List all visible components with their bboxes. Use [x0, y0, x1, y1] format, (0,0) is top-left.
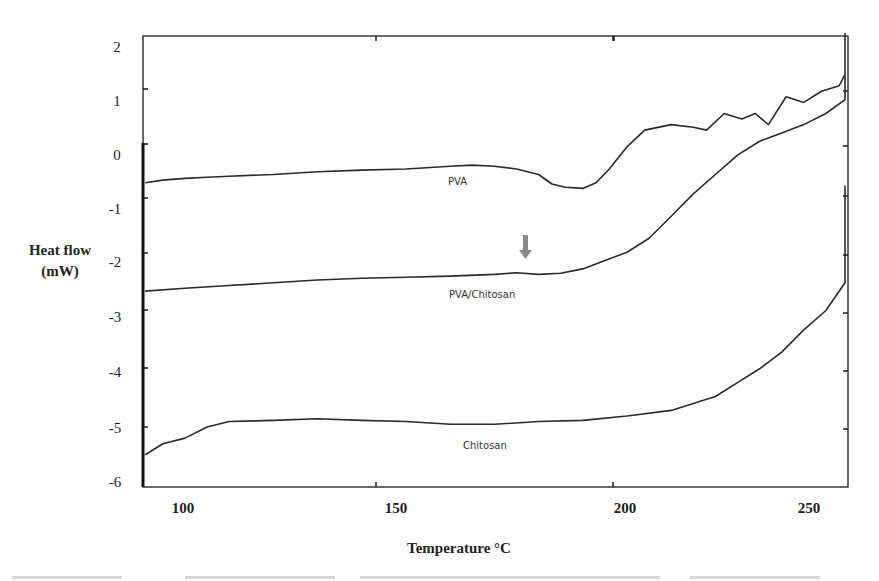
cropped-caption-remnant	[12, 576, 820, 579]
y-tick-label: 0	[113, 147, 121, 163]
x-tick-label: 100	[172, 500, 195, 516]
y-tick-label: -5	[109, 420, 122, 436]
series-line-pva	[145, 33, 845, 188]
series-label-pva-chitosan: PVA/Chitosan	[449, 289, 515, 300]
series-label-pva: PVA	[448, 176, 467, 187]
series-layer	[145, 33, 845, 455]
x-tick-label: 250	[798, 500, 821, 516]
series-line-pva-chitosan	[145, 75, 845, 292]
y-tick-label: -6	[109, 474, 122, 490]
dsc-thermogram-chart: 2 1 0 -1 -2 -3 -4 -5 -6 100 150 200 250 …	[0, 0, 879, 581]
y-tick-label: -4	[109, 364, 122, 380]
x-tick-label: 200	[614, 500, 637, 516]
x-tick-label: 150	[385, 500, 408, 516]
y-axis-tick-labels: 2 1 0 -1 -2 -3 -4 -5 -6	[109, 39, 122, 490]
y-tick-label: -1	[109, 201, 122, 217]
y-axis-title-line1: Heat flow	[29, 242, 91, 258]
plot-frame	[143, 36, 848, 487]
x-axis-ticks	[376, 36, 614, 487]
y-tick-label: 2	[113, 39, 121, 55]
x-axis-tick-labels: 100 150 200 250	[172, 500, 821, 516]
y-axis-title-line2: (mW)	[41, 263, 79, 280]
x-axis-title: Temperature °C	[407, 540, 511, 556]
y-tick-label: 1	[113, 93, 121, 109]
y-tick-label: -2	[109, 254, 122, 270]
y-tick-label: -3	[109, 309, 122, 325]
series-line-chitosan	[145, 186, 845, 455]
series-label-chitosan: Chitosan	[463, 440, 507, 451]
down-arrow-icon	[519, 235, 532, 259]
